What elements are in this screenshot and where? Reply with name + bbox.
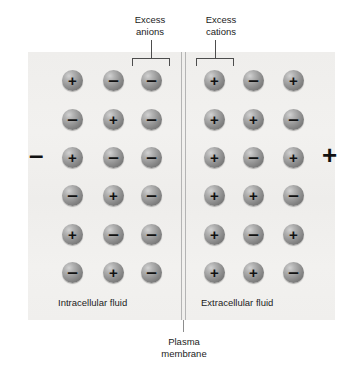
- intracellular-polarity-sign: –: [29, 142, 43, 168]
- ion-intracellular-r3-c2: –: [103, 147, 124, 168]
- anion-charge-glyph: –: [243, 146, 264, 167]
- excess-cations-label-line1: Excess: [190, 14, 252, 26]
- cation-charge-glyph: +: [62, 70, 83, 91]
- ion-intracellular-r1-c1: +: [62, 70, 83, 91]
- ion-extracellular-r3-c3: +: [283, 147, 304, 168]
- ion-extracellular-r6-c3: –: [283, 262, 304, 283]
- plasma-membrane-line-inner: [181, 52, 182, 320]
- ion-extracellular-r2-c2: +: [243, 109, 264, 130]
- extracellular-fluid-label: Extracellular fluid: [201, 297, 273, 308]
- excess-cations-bracket-arm-left: [196, 58, 197, 66]
- ion-extracellular-r5-c1: +: [204, 224, 225, 245]
- ion-intracellular-r2-c2: +: [103, 109, 124, 130]
- anion-charge-glyph: –: [141, 69, 162, 90]
- cation-charge-glyph: +: [103, 109, 124, 130]
- charge-separation-diagram: +–––+–+–––+–+–––+–+–+++–+–+++–+–+++– Exc…: [0, 0, 363, 378]
- ion-extracellular-r4-c3: –: [283, 185, 304, 206]
- anion-charge-glyph: –: [62, 108, 83, 129]
- cation-charge-glyph: +: [62, 147, 83, 168]
- excess-cations-bracket-arm-right: [233, 58, 234, 66]
- ion-extracellular-r2-c1: +: [204, 109, 225, 130]
- ion-intracellular-r6-c2: +: [103, 262, 124, 283]
- ion-intracellular-r2-c3: –: [141, 109, 162, 130]
- plasma-membrane-line-outer: [185, 52, 186, 320]
- anion-charge-glyph: –: [62, 261, 83, 282]
- cation-charge-glyph: +: [62, 224, 83, 245]
- ion-intracellular-r3-c1: +: [62, 147, 83, 168]
- anion-charge-glyph: –: [62, 184, 83, 205]
- anion-charge-glyph: –: [283, 261, 304, 282]
- ion-intracellular-r5-c3: –: [141, 224, 162, 245]
- cation-charge-glyph: +: [283, 70, 304, 91]
- ion-extracellular-r4-c1: +: [204, 185, 225, 206]
- cation-charge-glyph: +: [204, 70, 225, 91]
- excess-cations-label-line2: cations: [190, 26, 252, 38]
- anion-charge-glyph: –: [141, 184, 162, 205]
- ion-extracellular-r3-c2: –: [243, 147, 264, 168]
- ion-extracellular-r3-c1: +: [204, 147, 225, 168]
- ion-extracellular-r4-c2: +: [243, 185, 264, 206]
- cation-charge-glyph: +: [103, 262, 124, 283]
- excess-anions-bracket-arm-right: [169, 58, 170, 66]
- excess-anions-bracket: [132, 58, 170, 66]
- ion-intracellular-r1-c2: –: [103, 70, 124, 91]
- anion-charge-glyph: –: [103, 146, 124, 167]
- anion-charge-glyph: –: [141, 261, 162, 282]
- anion-charge-glyph: –: [103, 69, 124, 90]
- anion-charge-glyph: –: [141, 146, 162, 167]
- ion-intracellular-r5-c1: +: [62, 224, 83, 245]
- excess-cations-bracket-top: [196, 58, 234, 59]
- ion-extracellular-r6-c2: +: [243, 262, 264, 283]
- extracellular-polarity-sign: +: [322, 142, 337, 168]
- ion-intracellular-r6-c3: –: [141, 262, 162, 283]
- anion-charge-glyph: –: [283, 184, 304, 205]
- ion-intracellular-r5-c2: –: [103, 224, 124, 245]
- cation-charge-glyph: +: [243, 262, 264, 283]
- ion-intracellular-r6-c1: –: [62, 262, 83, 283]
- anion-charge-glyph: –: [283, 108, 304, 129]
- excess-anions-bracket-top: [132, 58, 170, 59]
- plasma-membrane-caption: Plasma membrane: [124, 336, 244, 360]
- ion-extracellular-r2-c3: –: [283, 109, 304, 130]
- plasma-membrane-caption-line2: membrane: [124, 348, 244, 360]
- ion-extracellular-r6-c1: +: [204, 262, 225, 283]
- ion-extracellular-r1-c1: +: [204, 70, 225, 91]
- ion-extracellular-r1-c3: +: [283, 70, 304, 91]
- anion-charge-glyph: –: [103, 223, 124, 244]
- anion-charge-glyph: –: [141, 223, 162, 244]
- cation-charge-glyph: +: [204, 185, 225, 206]
- anion-charge-glyph: –: [141, 108, 162, 129]
- ion-extracellular-r5-c2: –: [243, 224, 264, 245]
- excess-cations-bracket: [196, 58, 234, 66]
- excess-anions-label-line2: anions: [119, 26, 181, 38]
- excess-cations-label: Excess cations: [190, 14, 252, 38]
- excess-anions-bracket-arm-left: [132, 58, 133, 66]
- ion-extracellular-r5-c3: +: [283, 224, 304, 245]
- anion-charge-glyph: –: [243, 223, 264, 244]
- ion-intracellular-r1-c3: –: [141, 70, 162, 91]
- excess-anions-label-line1: Excess: [119, 14, 181, 26]
- ion-intracellular-r2-c1: –: [62, 109, 83, 130]
- ion-extracellular-r1-c2: –: [243, 70, 264, 91]
- excess-anions-label: Excess anions: [119, 14, 181, 38]
- plasma-membrane-leader-line: [183, 320, 184, 332]
- intracellular-fluid-label: Intracellular fluid: [58, 297, 127, 308]
- anion-charge-glyph: –: [243, 69, 264, 90]
- cation-charge-glyph: +: [204, 147, 225, 168]
- ion-intracellular-r4-c1: –: [62, 185, 83, 206]
- cation-charge-glyph: +: [243, 109, 264, 130]
- ion-intracellular-r4-c3: –: [141, 185, 162, 206]
- plasma-membrane-caption-line1: Plasma: [124, 336, 244, 348]
- cation-charge-glyph: +: [204, 262, 225, 283]
- cation-charge-glyph: +: [283, 224, 304, 245]
- cation-charge-glyph: +: [204, 109, 225, 130]
- cation-charge-glyph: +: [283, 147, 304, 168]
- cation-charge-glyph: +: [243, 185, 264, 206]
- cation-charge-glyph: +: [103, 185, 124, 206]
- ion-intracellular-r3-c3: –: [141, 147, 162, 168]
- excess-cations-bracket-stem: [215, 40, 216, 58]
- excess-anions-bracket-stem: [151, 40, 152, 58]
- cation-charge-glyph: +: [204, 224, 225, 245]
- ion-intracellular-r4-c2: +: [103, 185, 124, 206]
